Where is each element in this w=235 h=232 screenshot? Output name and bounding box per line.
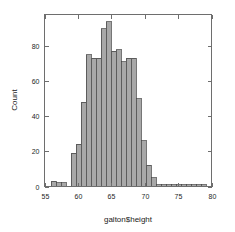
histogram-bar (131, 58, 136, 186)
histogram-figure: 556065707580 020406080 galton$height Cou… (0, 0, 235, 232)
histogram-bar (91, 58, 96, 186)
x-axis-tick-labels: 556065707580 (42, 193, 217, 200)
histogram-bar (51, 181, 56, 186)
histogram-bar (126, 58, 131, 186)
histogram-bar (101, 29, 106, 187)
histogram-bar (121, 62, 126, 187)
bars-group (51, 22, 206, 187)
histogram-bar (96, 58, 101, 186)
x-tick-label: 75 (175, 193, 183, 200)
y-tick-label: 80 (32, 43, 40, 50)
x-tick-label: 55 (42, 193, 50, 200)
histogram-bar (141, 141, 146, 187)
histogram-bar (61, 183, 66, 187)
y-axis-tick-labels: 020406080 (32, 43, 40, 191)
plot-canvas: 556065707580 020406080 galton$height Cou… (0, 0, 235, 232)
y-tick-label: 40 (32, 113, 40, 120)
y-axis-title: Count (10, 89, 19, 111)
histogram-bar (111, 51, 116, 186)
histogram-bar (116, 50, 121, 187)
y-tick-label: 60 (32, 78, 40, 85)
y-tick-label: 20 (32, 148, 40, 155)
histogram-bar (151, 178, 156, 187)
histogram-bar (76, 144, 81, 186)
histogram-bar (81, 102, 86, 186)
x-tick-label: 65 (108, 193, 116, 200)
histogram-bar (136, 99, 141, 187)
x-tick-label: 70 (142, 193, 150, 200)
histogram-bar (56, 183, 61, 187)
y-tick-label: 0 (36, 184, 40, 191)
x-tick-label: 60 (75, 193, 83, 200)
x-axis-title: galton$height (104, 215, 153, 224)
histogram-bar (106, 22, 111, 187)
histogram-bar (86, 55, 91, 187)
x-tick-label: 80 (209, 193, 217, 200)
histogram-bar (146, 165, 151, 186)
histogram-bar (71, 153, 76, 186)
